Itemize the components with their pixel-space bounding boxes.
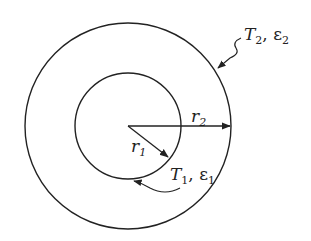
inner-radius-label: r1: [131, 136, 146, 159]
inner-surface-label: T1, ε1: [170, 164, 215, 187]
outer-surface-leader-arrow: [218, 38, 241, 68]
outer-surface-label: T2, ε2: [244, 24, 289, 47]
concentric-spheres-diagram: r2 r1 T2, ε2 T1, ε1: [0, 0, 311, 241]
outer-radius-label: r2: [191, 106, 206, 129]
